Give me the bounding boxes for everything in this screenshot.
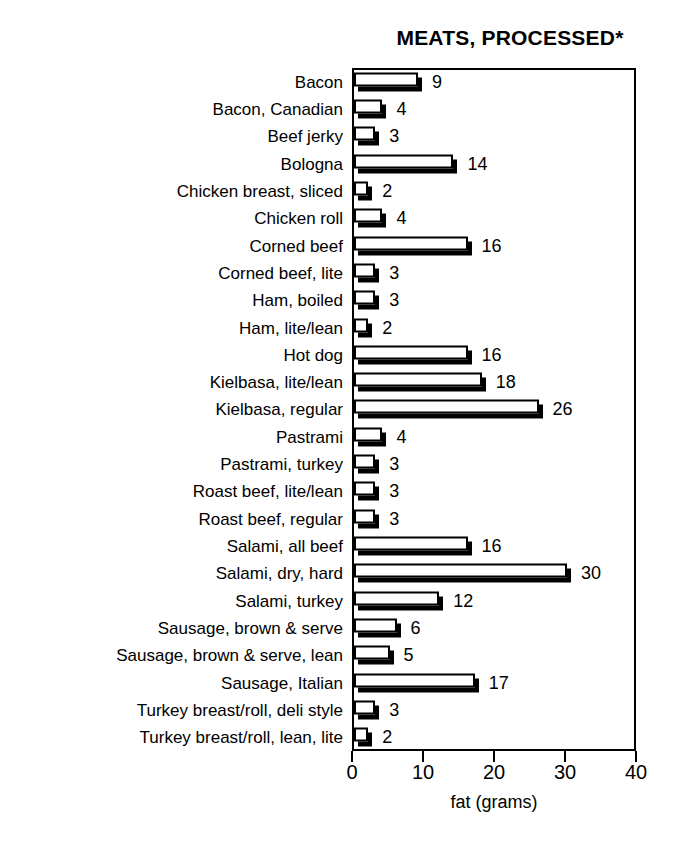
x-axis-title: fat (grams): [352, 793, 636, 811]
bar: [354, 619, 402, 638]
bar-category-label: Roast beef, lite/lean: [193, 483, 343, 500]
bar: [354, 209, 387, 228]
bar-row: Salami, all beef16: [0, 532, 687, 559]
bar-value-label: 2: [382, 319, 392, 337]
bar-row: Roast beef, lite/lean3: [0, 478, 687, 505]
bar: [354, 72, 423, 91]
bar-category-label: Chicken roll: [254, 210, 343, 227]
bar-value-label: 18: [496, 373, 516, 391]
bar-value-label: 26: [553, 400, 573, 418]
bar-category-label: Turkey breast/roll, lean, lite: [140, 729, 343, 746]
bar-value-label: 17: [489, 674, 509, 692]
bar-row: Turkey breast/roll, lean, lite2: [0, 724, 687, 751]
bar-row: Sausage, brown & serve6: [0, 614, 687, 641]
x-axis-tick-label: 20: [483, 762, 505, 782]
bar-category-label: Sausage, brown & serve: [158, 620, 343, 637]
bar: [354, 427, 387, 446]
bar-category-label: Kielbasa, lite/lean: [210, 374, 343, 391]
bar-value-label: 16: [482, 537, 502, 555]
bar-face: [354, 537, 468, 551]
bar-row: Salami, turkey12: [0, 587, 687, 614]
bar-category-label: Bacon, Canadian: [213, 100, 343, 117]
bar: [354, 345, 473, 364]
bar: [354, 263, 380, 282]
x-axis-tick-label: 0: [346, 762, 357, 782]
bar-category-label: Roast beef, regular: [198, 510, 343, 527]
bar-row: Ham, boiled3: [0, 287, 687, 314]
bar-value-label: 4: [396, 428, 406, 446]
bar-category-label: Pastrami: [276, 428, 343, 445]
bar-rows: Bacon9Bacon, Canadian4Beef jerky3Bologna…: [0, 68, 687, 751]
bar: [354, 701, 380, 720]
bar-face: [354, 673, 475, 687]
bar-face: [354, 72, 418, 86]
bar-value-label: 3: [389, 291, 399, 309]
bar-category-label: Beef jerky: [267, 128, 343, 145]
bar-row: Sausage, Italian17: [0, 669, 687, 696]
bar-value-label: 16: [482, 346, 502, 364]
bar-category-label: Pastrami, turkey: [220, 456, 343, 473]
bar-category-label: Ham, boiled: [252, 292, 343, 309]
bar-face: [354, 291, 375, 305]
bar-value-label: 3: [389, 510, 399, 528]
bar: [354, 236, 473, 255]
x-axis-tick-label: 30: [554, 762, 576, 782]
bar-category-label: Salami, dry, hard: [216, 565, 343, 582]
bar-face: [354, 373, 482, 387]
bar-chart: MEATS, PROCESSED* Bacon9Bacon, Canadian4…: [0, 0, 687, 858]
bar-face: [354, 509, 375, 523]
bar-row: Bacon9: [0, 68, 687, 95]
bar-category-label: Turkey breast/roll, deli style: [137, 702, 343, 719]
bar-category-label: Bacon: [295, 73, 343, 90]
bar-row: Beef jerky3: [0, 123, 687, 150]
bar: [354, 154, 458, 173]
bar: [354, 181, 373, 200]
bar: [354, 673, 480, 692]
bar-face: [354, 263, 375, 277]
bar: [354, 591, 444, 610]
bar-category-label: Corned beef, lite: [218, 264, 343, 281]
bar-row: Hot dog16: [0, 341, 687, 368]
bar-value-label: 3: [389, 455, 399, 473]
bar-face: [354, 455, 375, 469]
bar: [354, 482, 380, 501]
bar-face: [354, 127, 375, 141]
bar-value-label: 2: [382, 728, 392, 746]
bar-row: Pastrami, turkey3: [0, 450, 687, 477]
bar-row: Corned beef, lite3: [0, 259, 687, 286]
bar: [354, 373, 487, 392]
bar-value-label: 9: [432, 73, 442, 91]
bar-face: [354, 400, 539, 414]
bar-row: Bacon, Canadian4: [0, 95, 687, 122]
bar-row: Kielbasa, lite/lean18: [0, 369, 687, 396]
bar-category-label: Chicken breast, sliced: [177, 182, 343, 199]
bar: [354, 537, 473, 556]
bar-row: Salami, dry, hard30: [0, 560, 687, 587]
bar-face: [354, 591, 439, 605]
bar-value-label: 16: [482, 237, 502, 255]
bar: [354, 564, 572, 583]
bar: [354, 318, 373, 337]
bar-face: [354, 646, 390, 660]
bar-category-label: Salami, turkey: [235, 592, 343, 609]
bar: [354, 455, 380, 474]
bar: [354, 291, 380, 310]
bar: [354, 99, 387, 118]
bar-category-label: Hot dog: [283, 346, 343, 363]
bar-face: [354, 99, 382, 113]
bar-value-label: 4: [396, 100, 406, 118]
bar: [354, 127, 380, 146]
bar-value-label: 5: [404, 646, 414, 664]
bar-value-label: 3: [389, 264, 399, 282]
bar-row: Ham, lite/lean2: [0, 314, 687, 341]
bar-face: [354, 318, 368, 332]
bar-category-label: Ham, lite/lean: [239, 319, 343, 336]
bar-face: [354, 564, 567, 578]
bar-face: [354, 345, 468, 359]
bar-row: Roast beef, regular3: [0, 505, 687, 532]
bar-category-label: Corned beef: [249, 237, 343, 254]
bar-row: Corned beef16: [0, 232, 687, 259]
bar: [354, 400, 544, 419]
bar-row: Turkey breast/roll, deli style3: [0, 696, 687, 723]
bar-row: Chicken breast, sliced2: [0, 177, 687, 204]
